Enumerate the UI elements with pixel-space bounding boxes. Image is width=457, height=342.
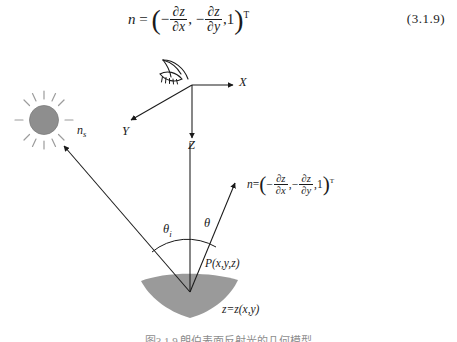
inline-frac-dzdx: ∂z∂x	[274, 173, 288, 196]
inline-denominator-dx: ∂x	[274, 185, 288, 196]
source-normal-subscript: s	[83, 129, 86, 139]
inline-close-paren: )	[323, 178, 330, 191]
figure-page: n = (−∂z∂x, −∂z∂y,1)T (3.1.9)	[0, 0, 457, 342]
coordinate-axes	[131, 85, 233, 138]
source-normal-label: ns	[77, 123, 86, 139]
incident-light-vector	[64, 146, 190, 292]
inline-open-paren: (	[259, 178, 266, 191]
inline-transpose: T	[330, 177, 334, 185]
surface-equation-label: z=z(x,y)	[222, 303, 259, 315]
angle-arc	[152, 239, 216, 252]
inline-frac-dzdy: ∂z∂y	[299, 173, 313, 196]
inline-denominator-dy: ∂y	[299, 185, 313, 196]
incidence-angle-label: θi	[163, 222, 172, 239]
inline-minus-2: −	[292, 178, 299, 190]
axis-x-label: X	[239, 75, 247, 90]
inline-normal-equation: n=(−∂z∂x,−∂z∂y,1)T	[247, 174, 334, 197]
inline-minus-1: −	[266, 178, 273, 190]
incidence-angle-subscript: i	[169, 229, 172, 239]
figure-caption: 图3.1.9 朗伯表面反射光的几何模型	[0, 332, 457, 342]
inline-numerator-dz-1: ∂z	[274, 173, 288, 185]
view-angle-label: θ	[204, 216, 210, 231]
axis-z-label: Z	[188, 138, 195, 153]
axis-y	[131, 85, 192, 120]
axis-y-label: Y	[122, 124, 129, 139]
eye-icon	[160, 60, 188, 84]
surface-point-label: P(x,y,z)	[205, 257, 239, 269]
sun-icon	[15, 91, 73, 149]
inline-numerator-dz-2: ∂z	[299, 173, 313, 185]
reflection-geometry-diagram	[0, 0, 457, 342]
